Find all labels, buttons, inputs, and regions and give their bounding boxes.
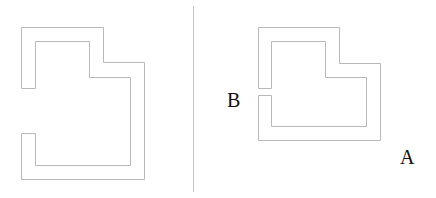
left-inner-wall	[36, 42, 131, 166]
label-b: B	[227, 89, 240, 111]
diagram-canvas: B A	[0, 0, 436, 198]
right-inner-wall	[272, 42, 367, 127]
left-outer-wall	[22, 28, 145, 180]
right-outer-wall	[259, 28, 381, 141]
label-a: A	[400, 146, 415, 168]
